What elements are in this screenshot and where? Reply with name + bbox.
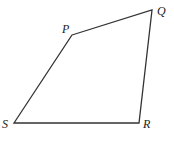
vertex-label-q: Q <box>157 4 166 18</box>
vertex-label-s: S <box>2 117 8 131</box>
quadrilateral-pqrs <box>14 10 152 123</box>
vertex-label-r: R <box>142 117 151 131</box>
vertex-label-p: P <box>61 22 70 36</box>
quadrilateral-figure: P Q R S <box>0 0 174 142</box>
